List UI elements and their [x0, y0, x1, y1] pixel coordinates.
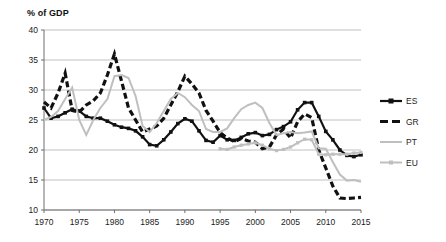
marker-EU-14 [317, 153, 320, 156]
x-tick-label-1980: 1980 [105, 217, 124, 227]
marker-ES-22 [197, 129, 201, 133]
gdp-investment-line-chart: % of GDP 10152025303540 1970197519801985… [0, 0, 446, 242]
x-tick-label-2005: 2005 [281, 217, 300, 227]
marker-ES-3 [63, 111, 67, 115]
x-tick-label-1975: 1975 [70, 217, 89, 227]
y-tick-label-25: 25 [29, 115, 39, 125]
marker-ES-41 [331, 138, 335, 142]
legend-label-ES: ES [406, 96, 418, 106]
x-tick-label-1985: 1985 [140, 217, 159, 227]
y-tick-label-10: 10 [29, 205, 39, 215]
marker-EU-17 [338, 153, 341, 156]
x-tick-label-2015: 2015 [352, 217, 371, 227]
chart-plot-area: 10152025303540 1970197519801985199019952… [0, 0, 446, 242]
marker-ES-10 [113, 123, 117, 127]
marker-EU-2 [233, 145, 236, 148]
legend-item-GR[interactable]: GR [380, 117, 419, 127]
marker-EU-0 [219, 147, 222, 150]
y-tick-label-15: 15 [29, 175, 39, 185]
marker-ES-37 [303, 101, 307, 105]
marker-ES-21 [190, 119, 194, 123]
marker-EU-16 [331, 153, 334, 156]
marker-ES-35 [289, 120, 293, 124]
marker-ES-6 [84, 115, 88, 119]
marker-ES-30 [254, 131, 258, 135]
marker-EU-10 [289, 145, 292, 148]
series-PT [44, 75, 361, 182]
marker-EU-12 [303, 138, 306, 141]
marker-ES-17 [162, 138, 166, 142]
marker-EU-20 [359, 151, 362, 154]
legend-item-EU[interactable]: EU [380, 158, 418, 168]
marker-EU-11 [296, 141, 299, 144]
legend-label-GR: GR [406, 117, 419, 127]
marker-EU-7 [268, 147, 271, 150]
marker-ES-40 [324, 130, 328, 134]
series-line-GR [44, 54, 361, 199]
legend-label-EU: EU [406, 158, 418, 168]
marker-ES-8 [99, 116, 103, 120]
marker-ES-32 [268, 133, 272, 137]
marker-ES-16 [155, 144, 159, 148]
x-tick-label-2000: 2000 [246, 217, 265, 227]
marker-ES-31 [261, 134, 265, 138]
x-tick-label-2010: 2010 [316, 217, 335, 227]
series-line-PT [44, 75, 361, 182]
marker-ES-19 [176, 122, 180, 126]
marker-EU-8 [275, 149, 278, 152]
marker-ES-14 [141, 135, 145, 139]
marker-ES-23 [204, 139, 208, 143]
marker-ES-18 [169, 130, 173, 134]
marker-ES-42 [338, 148, 342, 152]
marker-ES-2 [56, 115, 60, 119]
marker-ES-24 [211, 140, 215, 144]
legend-label-PT: PT [406, 137, 417, 147]
marker-EU-1 [226, 148, 229, 151]
data-series-group [42, 54, 363, 199]
marker-ES-0 [42, 106, 46, 110]
marker-ES-38 [310, 101, 314, 105]
chart-legend: ESGRPTEU [380, 96, 419, 168]
marker-ES-20 [183, 117, 187, 121]
marker-EU-13 [310, 138, 313, 141]
marker-ES-11 [120, 125, 124, 129]
marker-EU-19 [352, 151, 355, 154]
legend-item-ES[interactable]: ES [380, 96, 418, 106]
marker-ES-13 [134, 129, 138, 133]
legend-marker-ES [389, 99, 394, 104]
marker-ES-44 [352, 155, 356, 159]
x-tick-labels-group: 1970197519801985199019952000200520102015 [35, 217, 371, 227]
marker-EU-4 [247, 142, 250, 145]
marker-EU-6 [261, 144, 264, 147]
marker-EU-5 [254, 141, 257, 144]
marker-ES-29 [246, 132, 250, 136]
x-tick-label-1990: 1990 [175, 217, 194, 227]
marker-ES-9 [106, 119, 110, 123]
marker-EU-18 [345, 153, 348, 156]
marker-EU-15 [324, 153, 327, 156]
legend-marker-EU [389, 161, 393, 165]
x-tick-label-1970: 1970 [35, 217, 54, 227]
legend-item-PT[interactable]: PT [380, 137, 417, 147]
y-tick-labels-group: 10152025303540 [29, 25, 39, 215]
y-tick-label-20: 20 [29, 145, 39, 155]
marker-ES-36 [296, 108, 300, 112]
marker-ES-33 [275, 128, 279, 132]
y-tick-label-30: 30 [29, 85, 39, 95]
marker-ES-12 [127, 127, 131, 131]
marker-EU-3 [240, 144, 243, 147]
x-tick-label-1995: 1995 [211, 217, 230, 227]
marker-ES-39 [317, 115, 321, 119]
marker-EU-9 [282, 148, 285, 151]
y-tick-label-35: 35 [29, 55, 39, 65]
marker-ES-15 [148, 143, 152, 147]
y-tick-label-40: 40 [29, 25, 39, 35]
series-GR [44, 54, 361, 199]
